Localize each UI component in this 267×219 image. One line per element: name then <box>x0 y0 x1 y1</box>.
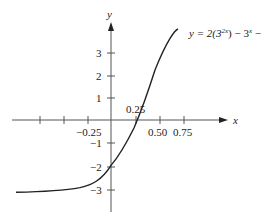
x-tick-label-075: 0.75 <box>173 126 193 138</box>
y-tick-label-3: 3 <box>96 47 102 59</box>
y-tick-label-1: 1 <box>96 92 102 104</box>
function-plot: y x −0.25 0.25 0.50 0.75 3 2 1 −1 −2 −3 … <box>0 0 267 219</box>
x-tick-label-025: 0.25 <box>126 103 146 115</box>
y-tick-label-neg3: −3 <box>90 184 102 196</box>
equation-suffix: − <box>252 27 261 39</box>
x-tick-label-050: 0.50 <box>148 126 168 138</box>
equation-label: y = 2(32x) − 3x − <box>188 27 261 40</box>
equation-prefix: y = 2(3 <box>188 27 222 40</box>
y-axis-label: y <box>106 8 112 20</box>
y-tick-label-2: 2 <box>96 70 102 82</box>
x-axis-arrow-icon <box>219 117 228 123</box>
y-tick-label-neg2: −2 <box>90 161 102 173</box>
y-axis-arrow-icon <box>108 22 114 31</box>
x-axis-label: x <box>232 114 238 126</box>
y-tick-label-neg1: −1 <box>90 137 102 149</box>
equation-mid: ) − 3 <box>228 27 249 40</box>
